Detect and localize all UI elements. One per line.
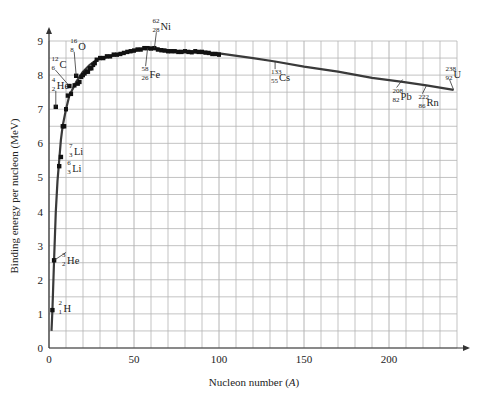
element-symbol: U bbox=[454, 69, 462, 80]
isotope-annotations: 21H32He63Li73Li42He126C168O5826Fe6228Ni1… bbox=[50, 17, 461, 316]
mass-number: 2 bbox=[58, 299, 62, 307]
atomic-number: 26 bbox=[142, 74, 150, 82]
element-symbol: Rn bbox=[426, 97, 439, 108]
isotope-point bbox=[57, 164, 61, 168]
atomic-number: 55 bbox=[271, 77, 279, 85]
data-point bbox=[78, 80, 82, 84]
data-point bbox=[64, 107, 68, 111]
mass-number: 16 bbox=[70, 37, 78, 45]
atomic-number: 6 bbox=[51, 64, 55, 72]
mass-number: 58 bbox=[142, 65, 150, 73]
y-tick-label: 0 bbox=[38, 342, 44, 354]
data-point bbox=[176, 50, 180, 54]
binding-energy-chart: 050100150200 0123456789 21H32He63Li73Li4… bbox=[0, 0, 495, 400]
x-axis-ticks: 050100150200 bbox=[46, 353, 398, 365]
element-symbol: O bbox=[78, 41, 86, 52]
isotope-label-li7: 73Li bbox=[59, 142, 84, 159]
x-tick-label: 150 bbox=[296, 353, 313, 365]
atomic-number: 2 bbox=[62, 260, 66, 268]
mass-number: 62 bbox=[152, 17, 160, 25]
y-tick-label: 3 bbox=[38, 240, 44, 252]
y-axis-arrow-icon bbox=[46, 27, 52, 34]
x-axis-arrow-icon bbox=[463, 345, 470, 351]
element-symbol: He bbox=[67, 255, 80, 266]
element-symbol: C bbox=[59, 59, 66, 70]
data-point bbox=[135, 47, 139, 51]
atomic-number: 8 bbox=[70, 46, 74, 54]
element-symbol: Li bbox=[72, 163, 81, 174]
data-point bbox=[193, 49, 197, 53]
element-symbol: Fe bbox=[150, 69, 161, 80]
isotope-point bbox=[50, 308, 54, 312]
y-tick-label: 7 bbox=[38, 103, 44, 115]
data-point bbox=[142, 46, 146, 50]
data-point bbox=[62, 124, 66, 128]
x-tick-label: 200 bbox=[381, 353, 398, 365]
element-symbol: H bbox=[63, 303, 71, 314]
leader-line bbox=[154, 32, 156, 48]
isotope-label-u238: 23892U bbox=[446, 65, 462, 90]
y-tick-label: 1 bbox=[38, 308, 44, 320]
y-tick-label: 2 bbox=[38, 274, 44, 286]
leader-line bbox=[146, 48, 148, 66]
atomic-number: 82 bbox=[393, 96, 401, 104]
isotope-label-rn222: 22286Rn bbox=[418, 86, 439, 110]
data-point bbox=[203, 50, 207, 54]
data-point bbox=[125, 50, 129, 54]
x-tick-label: 100 bbox=[211, 353, 228, 365]
y-tick-label: 8 bbox=[38, 69, 44, 81]
leader-line bbox=[74, 52, 76, 76]
y-axis-label: Binding energy per nucleon (MeV) bbox=[8, 118, 21, 273]
element-symbol: Pb bbox=[401, 91, 412, 102]
mass-number: 7 bbox=[69, 142, 73, 150]
atomic-number: 1 bbox=[58, 308, 62, 316]
atomic-number: 28 bbox=[152, 26, 160, 34]
mass-number: 4 bbox=[52, 76, 56, 84]
x-tick-label: 0 bbox=[46, 353, 52, 365]
element-symbol: Li bbox=[74, 146, 83, 157]
data-point bbox=[217, 52, 221, 56]
atomic-number: 92 bbox=[446, 74, 454, 82]
mass-number: 3 bbox=[62, 251, 66, 259]
mass-number: 6 bbox=[67, 159, 71, 167]
y-tick-label: 6 bbox=[38, 137, 44, 149]
data-point bbox=[169, 49, 173, 53]
data-point bbox=[210, 52, 214, 56]
x-tick-label: 50 bbox=[129, 353, 141, 365]
mass-number: 12 bbox=[51, 55, 59, 63]
atomic-number: 3 bbox=[67, 168, 71, 176]
element-symbol: Cs bbox=[279, 72, 290, 83]
isotope-point bbox=[59, 155, 63, 159]
y-axis-ticks: 0123456789 bbox=[38, 35, 44, 354]
y-tick-label: 4 bbox=[38, 206, 44, 218]
y-tick-label: 5 bbox=[38, 171, 44, 183]
atomic-number: 2 bbox=[52, 85, 56, 93]
element-symbol: Ni bbox=[160, 21, 171, 32]
x-axis-label: Nucleon number (A) bbox=[209, 376, 300, 389]
data-point bbox=[159, 48, 163, 52]
y-tick-label: 9 bbox=[38, 35, 44, 47]
isotope-label-li6: 63Li bbox=[57, 159, 82, 176]
data-point bbox=[186, 50, 190, 54]
atomic-number: 3 bbox=[69, 151, 73, 159]
data-point bbox=[69, 92, 73, 96]
atomic-number: 86 bbox=[418, 102, 426, 110]
